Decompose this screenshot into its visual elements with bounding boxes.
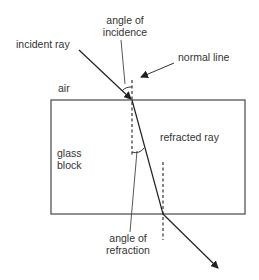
angle-of-incidence-arc [122,87,132,91]
refraction-diagram: angle of incidence incident ray normal l… [0,0,259,280]
incident-ray [79,50,131,99]
emergent-ray [163,214,218,268]
angle-of-refraction-arc [132,148,144,153]
label-air: air [58,82,70,94]
angle-of-refraction-pointer [130,151,137,232]
normal-line-pointer [141,63,174,77]
label-angle-of-incidence-2: incidence [103,26,148,38]
label-angle-of-incidence-1: angle of [106,14,143,26]
label-angle-of-refraction-1: angle of [109,232,146,244]
angle-of-incidence-pointer [121,40,125,84]
label-angle-of-refraction-2: refraction [106,244,150,256]
label-glass: glass [57,147,82,159]
label-normal-line: normal line [178,51,230,63]
label-refracted-ray: refracted ray [160,131,220,143]
label-block: block [57,159,82,171]
label-incident-ray: incident ray [16,38,70,50]
